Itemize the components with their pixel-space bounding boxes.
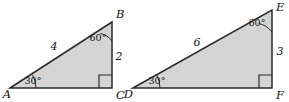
angle-label-b: 60° [90,32,107,43]
angle-label-a: 30° [25,75,42,86]
similar-triangles-svg: A B C 4 2 30° 60° D E F 6 [0,0,289,102]
triangle-def-group: D E F 6 3 30° 60° [123,0,285,102]
side-label-leg-ef: 3 [277,45,284,58]
triangle-abc-group: A B C 4 2 30° 60° [2,7,125,102]
geometry-figure: A B C 4 2 30° 60° D E F 6 [0,0,289,102]
angle-label-d: 30° [149,75,166,86]
vertex-label-e: E [275,0,285,14]
side-label-leg-bc: 2 [115,50,123,63]
vertex-label-a: A [2,87,11,101]
angle-label-e: 60° [249,17,266,28]
vertex-label-f: F [275,88,285,102]
vertex-label-d: D [123,87,133,101]
side-label-hypotenuse-ab: 4 [50,40,58,53]
side-label-hypotenuse-de: 6 [194,36,201,49]
vertex-label-b: B [115,7,124,21]
